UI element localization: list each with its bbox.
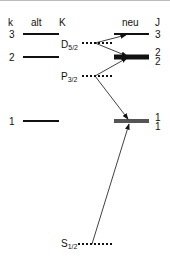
arrow-P32-to-J2	[95, 58, 127, 76]
arrow-D52-to-J3	[95, 35, 126, 43]
level-diagram	[0, 0, 170, 262]
arrow-P32-to-J1	[95, 76, 128, 119]
arrow-D52-to-J2	[95, 43, 127, 56]
arrow-S12-to-J1	[92, 124, 129, 244]
